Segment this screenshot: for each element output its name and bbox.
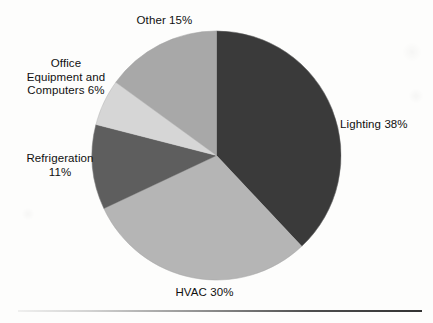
pie-slices-group (92, 31, 341, 280)
slice-label-other: Other 15% (102, 14, 227, 28)
slice-label-hvac: HVAC 30% (142, 286, 267, 300)
bottom-divider-rule (18, 310, 422, 312)
slice-label-lighting: Lighting 38% (340, 118, 433, 132)
slice-label-refrigeration: Refrigeration 11% (8, 152, 112, 179)
slice-label-office-equipment-and-computers: Office Equipment and Computers 6% (10, 57, 122, 98)
pie-chart-figure: Lighting 38% HVAC 30% Refrigeration 11% … (0, 0, 433, 323)
